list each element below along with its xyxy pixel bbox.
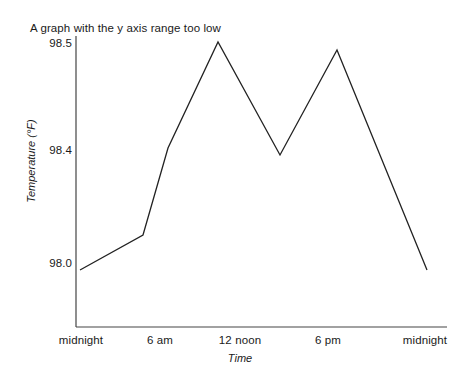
plot-area (0, 0, 468, 381)
temperature-line-series (80, 42, 427, 270)
chart-figure: A graph with the y axis range too low 98… (0, 0, 468, 381)
y-axis-tick-label: 98.0 (28, 257, 72, 269)
x-axis-tick-label: 12 noon (219, 334, 261, 346)
x-axis-tick-label: 6 am (147, 334, 173, 346)
y-axis-title: Temperature (°F) (25, 101, 37, 221)
y-axis-tick-label: 98.5 (28, 37, 72, 49)
x-axis-title: Time (228, 352, 252, 364)
x-axis-tick-label: midnight (403, 334, 447, 346)
x-axis-tick-label: 6 pm (315, 334, 341, 346)
x-axis-tick-label: midnight (59, 334, 103, 346)
